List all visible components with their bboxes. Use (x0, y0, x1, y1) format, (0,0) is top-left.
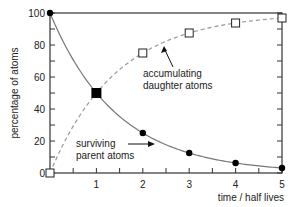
x-tick-label: 3 (186, 179, 192, 190)
plot-border (50, 13, 282, 173)
y-tick-label: 0 (39, 168, 45, 179)
y-tick-label: 100 (28, 8, 45, 19)
y-axis-title: percentage of atoms (9, 47, 20, 138)
parent-marker (232, 160, 238, 166)
axis-ticks (50, 13, 282, 173)
x-tick-label: 1 (94, 179, 100, 190)
x-tick-label: 5 (279, 179, 285, 190)
daughter-marker (185, 29, 193, 37)
daughter-marker (46, 169, 54, 177)
x-tick-label: 4 (233, 179, 239, 190)
y-tick-label: 20 (34, 136, 46, 147)
parent-marker (186, 150, 192, 156)
daughter-marker (139, 49, 147, 57)
decay-chart: 02040608010012345time / half livespercen… (0, 0, 296, 207)
annotations: accumulatingdaughter atomssurvivingparen… (76, 46, 213, 161)
daughter-annotation-line2: daughter atoms (143, 80, 213, 91)
y-tick-label: 40 (34, 104, 46, 115)
parent-marker (279, 165, 285, 171)
parent-marker (47, 10, 53, 16)
intersection-marker (91, 88, 101, 98)
daughter-marker (278, 14, 286, 22)
x-tick-label: 2 (140, 179, 146, 190)
parent-marker (140, 130, 146, 136)
daughter-annotation-line1: accumulating (143, 68, 202, 79)
parent-annotation-line2: parent atoms (76, 150, 134, 161)
plot-frame (50, 13, 282, 173)
daughter-marker (232, 19, 240, 27)
x-axis-title: time / half lives (218, 192, 284, 203)
parent-annotation-line1: surviving (76, 138, 115, 149)
y-tick-label: 60 (34, 72, 46, 83)
parent-arrowhead-icon (148, 141, 155, 147)
y-tick-label: 80 (34, 40, 46, 51)
